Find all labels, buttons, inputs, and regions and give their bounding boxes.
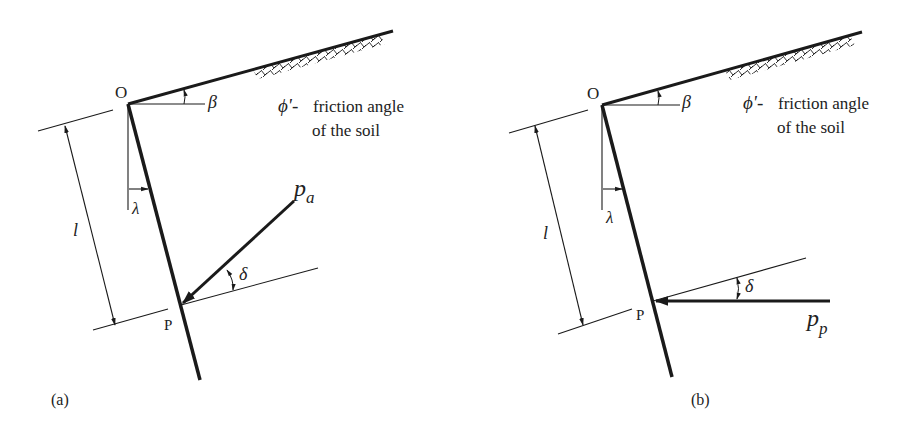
lambda-label: λ: [131, 199, 139, 218]
wall-line: [602, 105, 672, 377]
force-pp-label: pp: [805, 305, 828, 338]
delta-angle-arc: [227, 270, 233, 290]
dimension-extension-bottom: [93, 309, 168, 330]
active-force-arrow: [183, 201, 294, 303]
point-p-label: P: [636, 307, 644, 323]
force-pa-label: pa: [292, 175, 315, 207]
dimension-extension-top: [38, 110, 113, 131]
wall-line: [128, 104, 200, 380]
beta-label: β: [207, 92, 217, 112]
beta-label: β: [681, 92, 691, 112]
delta-label: δ: [745, 276, 754, 296]
point-o-label: O: [587, 84, 599, 103]
point-p-label: P: [164, 317, 172, 333]
friction-text-line2: of the soil: [777, 118, 845, 137]
delta-label: δ: [239, 264, 248, 284]
panel-b: O β ϕ'- friction angle of the soil λ l δ…: [509, 32, 869, 409]
beta-angle-arc: [184, 90, 185, 104]
delta-angle-arc: [737, 278, 739, 299]
dimension-extension-bottom: [558, 309, 632, 334]
soil-hatching-icon: [725, 36, 855, 80]
point-o-label: O: [115, 83, 127, 102]
panel-caption-b: (b): [691, 391, 710, 409]
friction-text-line1: friction angle: [778, 94, 869, 113]
friction-symbol-label: ϕ'-: [278, 95, 298, 116]
delta-reference-line: [653, 258, 806, 301]
lambda-label: λ: [605, 208, 613, 227]
panel-a: O β ϕ'- friction angle of the soil λ l p…: [38, 31, 404, 409]
beta-angle-arc: [658, 91, 659, 105]
friction-text-line1: friction angle: [313, 97, 404, 116]
panel-caption-a: (a): [51, 391, 69, 409]
backfill-surface-line: [128, 31, 393, 104]
length-label: l: [73, 220, 78, 240]
friction-text-line2: of the soil: [312, 121, 380, 140]
dimension-extension-top: [509, 110, 588, 133]
length-label: l: [543, 223, 548, 243]
friction-symbol-label: ϕ'-: [743, 92, 763, 113]
soil-hatching-icon: [253, 35, 385, 79]
figure-canvas: O β ϕ'- friction angle of the soil λ l p…: [0, 0, 916, 430]
